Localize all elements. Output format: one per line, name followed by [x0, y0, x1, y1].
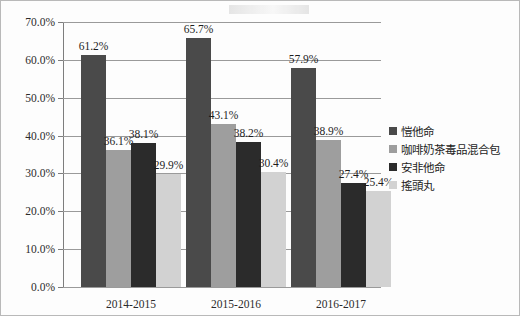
- y-axis-tick-label: 60.0%: [25, 54, 55, 66]
- y-axis-tick-label: 40.0%: [25, 130, 55, 142]
- bar-value-label: 38.2%: [234, 127, 264, 139]
- y-axis-tick-label: 70.0%: [25, 16, 55, 28]
- scan-artifact: [229, 5, 309, 14]
- bar[interactable]: [366, 191, 391, 287]
- y-axis-tick-label: 0.0%: [31, 281, 55, 293]
- y-axis-tick-mark: [58, 211, 63, 212]
- bar[interactable]: [186, 38, 211, 287]
- legend-item[interactable]: 搖頭丸: [389, 176, 515, 194]
- y-axis-tick-mark: [58, 173, 63, 174]
- y-axis-tick-label: 30.0%: [25, 167, 55, 179]
- bar[interactable]: [156, 174, 181, 287]
- bar-value-label: 38.9%: [314, 125, 344, 137]
- y-axis-tick-mark: [58, 98, 63, 99]
- legend-label: 咖啡奶茶毒品混合包: [401, 141, 500, 157]
- bar-value-label: 65.7%: [184, 23, 214, 35]
- bar-value-label: 43.1%: [209, 109, 239, 121]
- bar[interactable]: [81, 55, 106, 287]
- bar[interactable]: [341, 183, 366, 287]
- legend-swatch-icon: [389, 145, 397, 153]
- bar-value-label: 61.2%: [79, 40, 109, 52]
- bar-value-label: 38.1%: [129, 128, 159, 140]
- y-axis-tick-mark: [58, 249, 63, 250]
- y-axis-tick-label: 10.0%: [25, 243, 55, 255]
- bar-value-label: 57.9%: [289, 53, 319, 65]
- x-axis-tick-label: 2016-2017: [316, 298, 366, 310]
- chart-legend: 愷他命咖啡奶茶毒品混合包安非他命搖頭丸: [389, 122, 515, 194]
- legend-swatch-icon: [389, 127, 397, 135]
- bar-group: 65.7%43.1%38.2%30.4%: [186, 22, 286, 287]
- bar-group: 57.9%38.9%27.4%25.4%: [291, 22, 391, 287]
- legend-swatch-icon: [389, 163, 397, 171]
- x-axis-tick-label: 2014-2015: [106, 298, 156, 310]
- y-axis-tick-mark: [58, 287, 63, 288]
- legend-item[interactable]: 咖啡奶茶毒品混合包: [389, 140, 515, 158]
- y-axis-tick-mark: [58, 60, 63, 61]
- bar[interactable]: [261, 172, 286, 287]
- bar[interactable]: [291, 68, 316, 287]
- chart-page: 0.0%10.0%20.0%30.0%40.0%50.0%60.0%70.0% …: [0, 0, 520, 316]
- bar[interactable]: [236, 142, 261, 287]
- bar[interactable]: [316, 140, 341, 287]
- legend-item[interactable]: 安非他命: [389, 158, 515, 176]
- bar-value-label: 29.9%: [154, 159, 184, 171]
- legend-item[interactable]: 愷他命: [389, 122, 515, 140]
- bar-group: 61.2%36.1%38.1%29.9%: [81, 22, 181, 287]
- bar[interactable]: [211, 124, 236, 287]
- plot-area: 0.0%10.0%20.0%30.0%40.0%50.0%60.0%70.0% …: [63, 22, 381, 287]
- y-axis: [63, 22, 64, 287]
- legend-label: 搖頭丸: [401, 177, 434, 193]
- legend-label: 安非他命: [401, 159, 445, 175]
- bar[interactable]: [131, 143, 156, 287]
- gridline: [63, 287, 381, 288]
- y-axis-tick-mark: [58, 22, 63, 23]
- y-axis-tick-label: 50.0%: [25, 92, 55, 104]
- bar[interactable]: [106, 150, 131, 287]
- y-axis-tick-mark: [58, 136, 63, 137]
- x-axis-tick-label: 2015-2016: [211, 298, 261, 310]
- legend-swatch-icon: [389, 181, 397, 189]
- legend-label: 愷他命: [401, 123, 434, 139]
- y-axis-tick-label: 20.0%: [25, 205, 55, 217]
- bar-value-label: 30.4%: [259, 157, 289, 169]
